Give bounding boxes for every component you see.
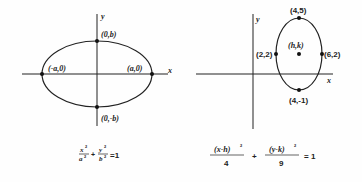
left-y-axis-label: y <box>100 12 105 21</box>
right-ellipse-diagram: y x (4,5) (4,-1) (2,2) (6,2) (h,k) <box>196 6 341 129</box>
left-point-bottom <box>95 105 99 109</box>
right-label-left: (2,2) <box>256 50 273 59</box>
right-label-center: (h,k) <box>288 41 304 50</box>
eq1-term1-num: x <box>79 146 84 154</box>
right-point-bottom <box>297 88 301 92</box>
eq2-term1-num: (x-h) <box>214 145 231 154</box>
eq2-equals: = 1 <box>304 152 316 161</box>
eq2-term2-num: (y-k) <box>269 145 285 154</box>
eq2-term2-exp: 2 <box>294 143 297 148</box>
left-point-left <box>40 72 44 76</box>
eq2-plus: + <box>252 152 257 161</box>
eq2-term2-den: 9 <box>279 159 284 168</box>
eq2-term1-exp: 2 <box>240 143 243 148</box>
left-x-axis-label: x <box>167 66 172 75</box>
right-equation: (x-h) 2 4 + (y-k) 2 9 = 1 <box>210 143 316 168</box>
right-label-top: (4,5) <box>290 6 307 15</box>
ellipse-diagrams: y x (0,b) (0,-b) (-a,0) (a,0) y x (4,5) … <box>0 0 362 182</box>
eq1-term2-num-exp: 2 <box>104 144 107 149</box>
left-ellipse-diagram: y x (0,b) (0,-b) (-a,0) (a,0) <box>22 12 172 126</box>
eq1-term1-den-exp: 2 <box>84 154 87 159</box>
eq1-term2-den-exp: 2 <box>104 154 107 159</box>
left-label-right: (a,0) <box>127 64 143 73</box>
right-label-right: (6,2) <box>324 50 341 59</box>
right-point-top <box>297 16 301 20</box>
left-label-top: (0,b) <box>101 30 117 39</box>
left-equation: x 2 a 2 + y 2 b 2 =1 <box>79 144 120 163</box>
right-point-center <box>297 52 301 56</box>
right-x-axis-label: x <box>326 76 331 85</box>
right-point-left <box>274 52 278 56</box>
left-point-right <box>150 72 154 76</box>
eq1-term1-num-exp: 2 <box>85 144 88 149</box>
right-label-bottom: (4,-1) <box>289 96 308 105</box>
left-label-bottom: (0,-b) <box>101 114 119 123</box>
eq1-term1-den: a <box>79 155 83 163</box>
left-label-left: (-a,0) <box>48 64 66 73</box>
eq1-term2-num: y <box>98 146 103 154</box>
eq1-plus: + <box>91 151 95 158</box>
eq1-equals: =1 <box>110 151 120 160</box>
left-point-top <box>95 39 99 43</box>
right-y-axis-label: y <box>255 15 260 24</box>
eq1-term2-den: b <box>99 155 103 163</box>
eq2-term1-den: 4 <box>224 159 229 168</box>
